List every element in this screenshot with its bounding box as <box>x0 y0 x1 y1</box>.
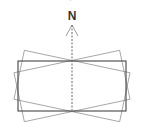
orientation-diagram: · N <box>0 0 148 135</box>
partial-top-text: · <box>69 0 72 5</box>
north-label: N <box>68 9 77 23</box>
